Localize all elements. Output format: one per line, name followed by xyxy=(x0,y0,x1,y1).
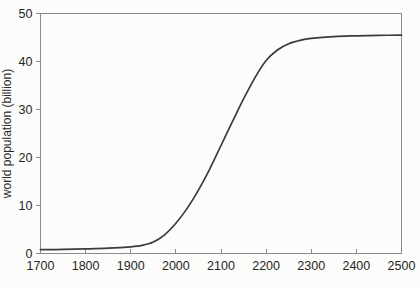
plot-border xyxy=(41,14,402,254)
population-curve xyxy=(41,35,402,250)
x-tick-label: 2100 xyxy=(207,259,235,273)
x-tick-label: 1800 xyxy=(72,259,100,273)
x-tick-label: 1900 xyxy=(117,259,145,273)
x-tick-label: 2500 xyxy=(388,259,416,273)
plot-frame xyxy=(41,14,402,254)
y-tick-label: 20 xyxy=(19,151,33,165)
world-population-line xyxy=(41,35,402,250)
y-tick-label: 40 xyxy=(19,55,33,69)
y-tick-label: 30 xyxy=(19,103,33,117)
figure: world population (billion) 1700180019002… xyxy=(0,0,420,288)
population-chart: world population (billion) 1700180019002… xyxy=(0,0,420,288)
y-tick-label: 0 xyxy=(26,247,33,261)
y-tick-label: 10 xyxy=(19,199,33,213)
y-axis-title: world population (billion) xyxy=(0,69,14,199)
x-tick-label: 2400 xyxy=(342,259,370,273)
x-tick-label: 2300 xyxy=(297,259,325,273)
axis-ticks xyxy=(36,14,402,254)
y-tick-label: 50 xyxy=(19,7,33,21)
x-tick-label: 1700 xyxy=(27,259,55,273)
x-tick-label: 2000 xyxy=(162,259,190,273)
tick-labels: 1700180019002000210022002300240025000102… xyxy=(19,7,416,273)
x-tick-label: 2200 xyxy=(252,259,280,273)
